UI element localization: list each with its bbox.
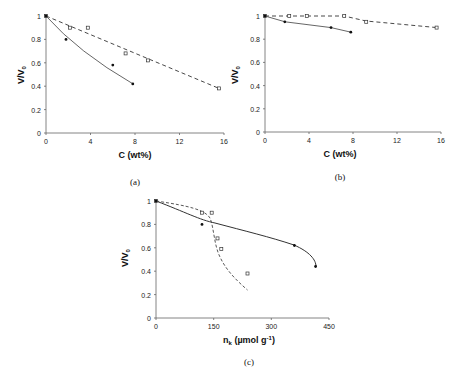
x-ticks-c: 0 150 300 450 xyxy=(154,323,335,330)
y-axis-label-b: V/V0 xyxy=(230,65,241,84)
caption-a: (a) xyxy=(130,177,140,187)
x-tick: 8 xyxy=(351,137,355,144)
x-tick: 12 xyxy=(393,137,401,144)
dashed-fit-line-a xyxy=(46,16,219,88)
x-tick: 8 xyxy=(133,138,137,145)
solid-fit-curve-c xyxy=(156,201,316,267)
caption-b: (b) xyxy=(335,172,346,182)
y-tick: 0 xyxy=(256,129,260,136)
x-ticks-a: 0 4 8 12 16 xyxy=(44,138,228,145)
solid-fit-line-b xyxy=(265,16,351,32)
x-axis-label-b: C (wt%) xyxy=(324,149,357,159)
y-tick: 0.8 xyxy=(31,36,41,43)
y-tick: 0 xyxy=(37,130,41,137)
x-tick: 16 xyxy=(437,137,445,144)
figure: 1 0.8 0.6 0.4 0.2 0 0 4 8 12 16 C (wt%) … xyxy=(0,0,454,370)
x-tick: 450 xyxy=(323,323,335,330)
x-axis-label-a: C (wt%) xyxy=(119,150,152,160)
open-square-markers-c xyxy=(155,200,250,276)
axes-b xyxy=(263,16,441,134)
y-tick: 1 xyxy=(256,13,260,20)
panel-a: 1 0.8 0.6 0.4 0.2 0 0 4 8 12 16 C (wt%) … xyxy=(16,13,228,187)
axes-c xyxy=(154,201,329,320)
x-axis-label-c: nk (µmol g-1) xyxy=(223,335,275,346)
y-tick: 0.6 xyxy=(250,59,260,66)
y-tick: 0.4 xyxy=(141,268,151,275)
x-tick: 0 xyxy=(263,137,267,144)
y-tick: 1 xyxy=(147,198,151,205)
caption-c: (c) xyxy=(244,357,254,367)
y-tick: 0.8 xyxy=(250,36,260,43)
filled-circle-markers-a xyxy=(45,15,135,86)
panel-b: 1 0.8 0.6 0.4 0.2 0 0 4 8 12 16 C (wt%) … xyxy=(230,13,445,182)
y-tick: 0.2 xyxy=(141,292,151,299)
x-ticks-b: 0 4 8 12 16 xyxy=(263,137,445,144)
y-tick: 0.2 xyxy=(31,107,41,114)
y-tick: 0.4 xyxy=(31,83,41,90)
x-tick: 0 xyxy=(154,323,158,330)
x-tick: 12 xyxy=(176,138,184,145)
y-ticks-c: 1 0.8 0.6 0.4 0.2 0 xyxy=(141,198,151,322)
y-tick: 0.4 xyxy=(250,83,260,90)
open-square-markers-b xyxy=(264,15,439,30)
y-tick: 0.2 xyxy=(250,106,260,113)
x-tick: 4 xyxy=(89,138,93,145)
y-tick: 0.8 xyxy=(141,221,151,228)
x-tick: 300 xyxy=(265,323,277,330)
x-tick: 150 xyxy=(208,323,220,330)
panel-c: 1 0.8 0.6 0.4 0.2 0 0 150 300 450 nk (µm… xyxy=(120,198,335,367)
y-axis-label-a: V/V0 xyxy=(16,65,27,84)
x-tick: 16 xyxy=(220,138,228,145)
y-tick: 0.6 xyxy=(141,245,151,252)
x-tick: 4 xyxy=(307,137,311,144)
x-tick: 0 xyxy=(44,138,48,145)
y-ticks-b: 1 0.8 0.6 0.4 0.2 0 xyxy=(250,13,260,136)
y-tick: 0.6 xyxy=(31,60,41,67)
y-axis-label-c: V/V0 xyxy=(120,248,131,267)
y-tick: 0 xyxy=(147,315,151,322)
y-tick: 1 xyxy=(37,13,41,20)
axes-a xyxy=(44,16,224,135)
y-ticks-a: 1 0.8 0.6 0.4 0.2 0 xyxy=(31,13,41,137)
